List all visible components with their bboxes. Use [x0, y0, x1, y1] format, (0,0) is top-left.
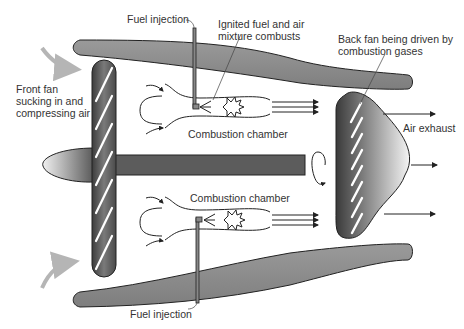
label-fuel-injection-bottom: Fuel injection	[130, 308, 192, 321]
label-front-fan-line2: sucking in and	[16, 95, 83, 108]
drive-shaft	[115, 155, 305, 175]
label-ignited-line1: Ignited fuel and air	[218, 18, 304, 31]
label-fuel-injection-top: Fuel injection	[127, 13, 189, 26]
label-combustion-chamber-bottom: Combustion chamber	[190, 192, 290, 205]
label-front-fan-line3: compressing air	[16, 107, 90, 120]
label-combustion-chamber-top: Combustion chamber	[188, 128, 288, 141]
lower-casing	[73, 244, 412, 307]
lower-fuel-injector	[196, 218, 199, 303]
label-front-fan-line1: Front fan	[16, 83, 58, 96]
label-back-fan-line2: combustion gases	[338, 45, 423, 58]
label-air-exhaust: Air exhaust	[403, 122, 456, 135]
label-ignited-line2: mixture combusts	[218, 30, 300, 43]
upper-combustion-chamber	[140, 84, 318, 134]
upper-fuel-injector	[193, 28, 196, 108]
nose-cone	[43, 148, 95, 182]
front-fan	[92, 60, 116, 277]
label-back-fan-line1: Back fan being driven by	[338, 33, 453, 46]
jet-engine-diagram: Fuel injection Ignited fuel and air mixt…	[0, 0, 464, 329]
intake-arrow-bottom-icon	[42, 262, 72, 288]
rotation-arrow-icon	[312, 152, 325, 184]
intake-arrow-top-icon	[42, 48, 74, 69]
